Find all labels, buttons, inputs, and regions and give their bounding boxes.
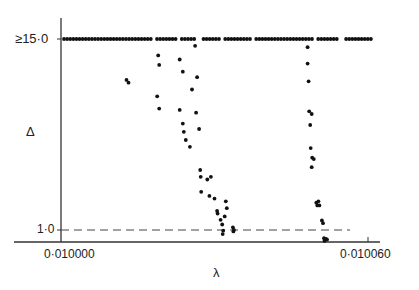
data-point [157,63,161,67]
y-tick-label-top: ≥15·0 [15,31,48,46]
data-point [221,232,225,236]
data-point [217,37,221,41]
data-point [174,37,178,41]
data-point [178,108,182,112]
data-point [155,94,159,98]
y-axis-label: Δ [26,124,35,139]
data-point [193,44,197,48]
data-point [321,221,325,225]
data-point [325,238,329,242]
data-point [208,194,212,198]
data-point [308,123,312,127]
data-point [335,37,339,41]
data-point [310,165,314,169]
data-point [224,199,228,203]
data-point [156,54,160,58]
data-point [195,75,199,79]
data-point [199,190,203,194]
data-point [194,111,198,115]
data-point [197,127,201,131]
data-point [223,215,227,219]
data-point [188,145,192,149]
data-point [149,37,153,41]
data-point [178,58,182,62]
data-point [181,70,185,74]
data-point [225,206,229,210]
data-point [306,45,310,49]
data-point [181,122,185,126]
data-point [318,204,322,208]
data-point [312,157,316,161]
x-tick-label-start: 0·010000 [44,247,95,261]
data-point [213,197,217,201]
saturated-row [62,37,373,41]
data-point [310,37,314,41]
data-point [306,62,310,66]
data-point [232,230,236,234]
data-point [127,81,131,85]
data-point [199,175,203,179]
data-point [182,130,186,134]
data-point [317,199,321,203]
data-point [190,88,194,92]
x-tick-label-end: 0·010060 [340,247,391,261]
x-axis-label: λ [213,265,220,280]
axes [14,18,380,242]
data-point [209,175,213,179]
data-points [125,44,329,243]
data-point [221,229,225,233]
data-point [310,112,314,116]
data-point [198,168,202,172]
data-point [369,37,373,41]
data-point [309,146,313,150]
data-point [192,37,196,41]
data-point [307,79,311,83]
data-point [205,178,209,182]
data-point [219,218,223,222]
data-point [248,37,252,41]
data-point [184,138,188,142]
data-point [220,223,224,227]
data-point [216,212,220,216]
y-tick-label-bottom: 1·0 [37,222,54,236]
data-point [157,107,161,111]
